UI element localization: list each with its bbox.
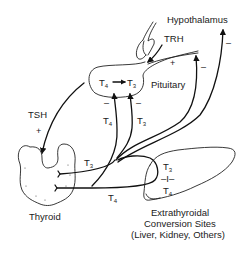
t4-feedback-minus-sign: – [104,98,109,108]
trh-plus-sign: + [170,58,175,68]
trh-arrow-icon [148,45,162,62]
pituitary-minus-sign: – [201,62,206,72]
extrathyroidal-label-line1: Extrathyroidal [151,207,209,218]
thyroid-feedback-diagram: Hypothalamus TRH + T4 T3 Pituitary TSH +… [0,0,245,253]
tsh-plus-sign: + [36,126,41,136]
pituitary-label: Pituitary [151,79,186,90]
pituitary-t3-label: T3 [127,77,137,89]
pituitary-conversion: T4 T3 [99,77,137,89]
thyroid-label: Thyroid [29,211,61,222]
extrathyroidal-to-hypothalamus-arrow-icon [118,30,223,162]
hypothalamus-minus-sign: – [226,38,231,48]
thyroid-t4-label: T4 [108,192,118,204]
thyroid-gland [18,144,75,206]
hypothalamus-stalk [136,22,156,59]
t3-feedback-minus-sign: – [136,98,141,108]
pituitary-t4-label: T4 [99,77,109,89]
thyroid-t3-label: T3 [84,157,94,169]
hypothalamus-label: Hypothalamus [167,14,228,25]
tsh-label: TSH [28,109,47,120]
tsh-arrow-icon [42,83,84,153]
liver-conversion-sign: –I– [161,173,175,184]
extrathyroidal-label-line2: Conversion Sites [144,218,216,229]
liver-t3-label: T3 [163,161,173,173]
trh-label: TRH [164,33,184,44]
extrathyroidal-label-line3: (Liver, Kidney, Others) [131,229,225,240]
extrathyroidal-to-pituitary-arrow-icon [116,56,197,160]
liver-t4-label: T4 [163,185,173,197]
t3-feedback-label: T3 [137,115,147,127]
t4-feedback-label: T4 [103,115,113,127]
